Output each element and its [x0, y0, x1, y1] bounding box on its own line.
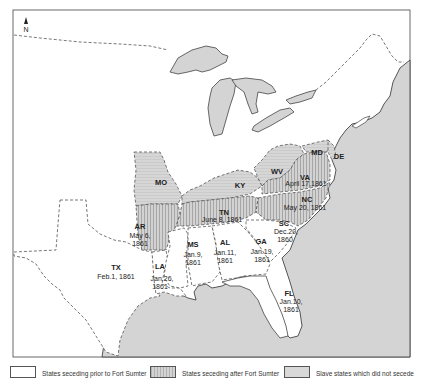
svg-text:June 8, 1861: June 8, 1861 [202, 216, 243, 223]
label-nc: NC [302, 195, 313, 204]
svg-text:Jan.10,: Jan.10, [280, 298, 303, 305]
label-md: MD [311, 148, 323, 157]
svg-text:1861: 1861 [185, 259, 201, 266]
svg-text:April 17,1861: April 17,1861 [285, 180, 326, 188]
svg-text:N: N [24, 26, 29, 33]
svg-text:Jan.26,: Jan.26, [151, 275, 174, 282]
legend-item-after: States seceding after Fort Sumter [150, 366, 279, 378]
svg-text:1861: 1861 [283, 306, 299, 313]
label-al: AL [220, 238, 230, 247]
legend-swatch-white [10, 366, 36, 378]
label-ga: GA [255, 237, 267, 246]
label-la: LA [155, 262, 166, 271]
svg-text:1860: 1860 [277, 236, 293, 243]
label-de: DE [334, 152, 344, 161]
date-tx: Feb.1, 1861 [97, 273, 134, 280]
svg-text:May 20, 1861: May 20, 1861 [284, 204, 327, 212]
label-wv: WV [271, 167, 283, 176]
legend-swatch-gray [284, 366, 310, 378]
svg-text:1861: 1861 [132, 240, 148, 247]
legend-item-prior: States seceding prior to Fort Sumter [10, 366, 146, 378]
svg-text:Dec.20,: Dec.20, [274, 228, 298, 235]
label-tx: TX [111, 263, 121, 272]
legend-item-slave: Slave states which did not secede [284, 366, 414, 378]
label-sc: SC [279, 219, 290, 228]
label-mo: MO [155, 178, 167, 187]
svg-text:1861: 1861 [152, 283, 168, 290]
map-legend: States seceding prior to Fort Sumter Sta… [0, 366, 422, 386]
civil-war-secession-map: N TX Feb.1, 1861 LA Jan.26, 1861 MS Jan.… [0, 0, 422, 392]
label-fl: FL [284, 289, 294, 298]
svg-text:May 6,: May 6, [129, 232, 150, 240]
svg-text:Jan.11,: Jan.11, [214, 249, 236, 256]
svg-text:Jan.19,: Jan.19, [251, 248, 274, 255]
svg-text:1861: 1861 [254, 256, 270, 263]
svg-text:1861: 1861 [217, 257, 233, 264]
label-ar: AR [135, 222, 146, 231]
legend-swatch-hatched [150, 366, 176, 378]
label-ms: MS [187, 240, 198, 249]
label-ky: KY [235, 181, 245, 190]
svg-text:Jan.9,: Jan.9, [183, 251, 202, 258]
